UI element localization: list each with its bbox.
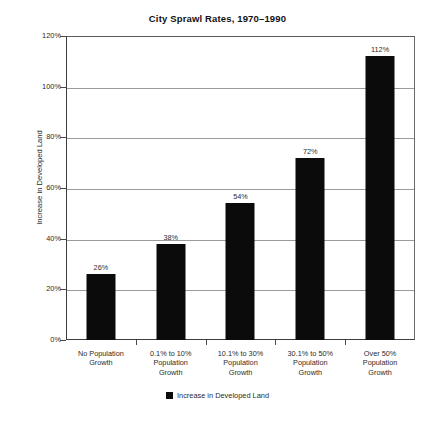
x-category-label: No PopulationGrowth (66, 349, 136, 368)
y-tick-label-20: 20% (15, 284, 61, 293)
x-tick-mark-3 (275, 340, 276, 345)
y-tick-label-120: 120% (15, 31, 61, 40)
legend-swatch-increase-in-developed-land (166, 392, 173, 399)
sprawl-bar-chart: City Sprawl Rates, 1970–1990 Increase in… (0, 0, 435, 424)
bar[interactable] (226, 203, 255, 340)
bar[interactable] (86, 274, 115, 340)
bar-slot: 38% (136, 36, 206, 340)
bar-value-label: 112% (371, 45, 389, 54)
bar-value-label: 38% (163, 233, 178, 242)
bar-slot: 54% (206, 36, 276, 340)
bar[interactable] (296, 158, 325, 340)
y-tick-label-0: 0% (15, 335, 61, 344)
chart-title: City Sprawl Rates, 1970–1990 (0, 13, 435, 24)
x-tick-mark-2 (206, 340, 207, 345)
bar-value-label: 26% (94, 263, 109, 272)
bar-value-label: 54% (233, 192, 248, 201)
bar-slot: 112% (345, 36, 415, 340)
y-tick-mark-0 (60, 340, 66, 341)
bar[interactable] (366, 56, 395, 340)
bar-slot: 72% (275, 36, 345, 340)
bars-layer: 26%38%54%72%112% (66, 36, 415, 340)
y-tick-label-40: 40% (15, 234, 61, 243)
y-tick-label-100: 100% (15, 82, 61, 91)
x-category-label: 10.1% to 30%PopulationGrowth (206, 349, 276, 377)
bar-value-label: 72% (303, 147, 318, 156)
x-category-label: 30.1% to 50%PopulationGrowth (275, 349, 345, 377)
chart-legend: Increase in Developed Land (0, 391, 435, 400)
bar-slot: 26% (66, 36, 136, 340)
x-tick-mark-4 (345, 340, 346, 345)
y-axis-title: Increase in Developed Land (35, 78, 44, 278)
bar[interactable] (156, 244, 185, 340)
y-tick-label-80: 80% (15, 132, 61, 141)
x-category-label: 0.1% to 10%PopulationGrowth (136, 349, 206, 377)
x-tick-mark-1 (136, 340, 137, 345)
y-tick-label-60: 60% (15, 183, 61, 192)
legend-label-increase-in-developed-land: Increase in Developed Land (177, 391, 269, 400)
x-category-label: Over 50%PopulationGrowth (345, 349, 415, 377)
